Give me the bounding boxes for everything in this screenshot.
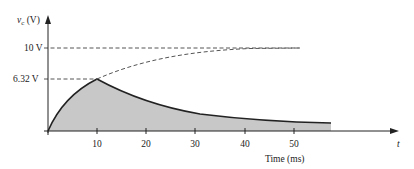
ref-label-632v: 6.32 V xyxy=(13,74,39,84)
x-axis-symbol: t xyxy=(397,139,400,149)
y-axis-arrow-icon xyxy=(45,15,51,24)
tick-label-20: 20 xyxy=(141,139,151,149)
x-axis-arrow-icon xyxy=(390,128,399,134)
ref-label-10v: 10 V xyxy=(24,43,43,53)
dashed-charging-continuation xyxy=(97,48,300,79)
x-axis-title: Time (ms) xyxy=(265,154,305,165)
tick-label-40: 40 xyxy=(240,139,250,149)
tick-label-30: 30 xyxy=(190,139,200,149)
capacitor-voltage-chart: vc (V) 10 V 6.32 V 10 20 30 40 50 t Time… xyxy=(0,0,414,169)
tick-label-10: 10 xyxy=(92,139,102,149)
shaded-area xyxy=(48,79,331,131)
y-axis-label: vc (V) xyxy=(17,15,40,27)
tick-label-50: 50 xyxy=(289,139,299,149)
